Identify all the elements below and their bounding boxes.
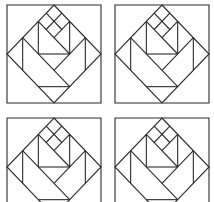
quilt-block-bottom-right — [115, 118, 209, 202]
tulip-block-icon — [115, 118, 209, 202]
quilt-block-bottom-left — [7, 118, 101, 202]
quilt-block-top-right — [115, 5, 209, 103]
quilt-block-top-left — [7, 5, 101, 103]
tulip-block-icon — [115, 5, 209, 103]
tulip-block-icon — [7, 118, 101, 202]
tulip-block-icon — [7, 5, 101, 103]
